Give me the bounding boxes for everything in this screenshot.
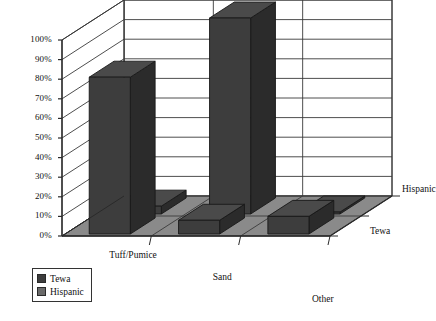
legend-item-label: Tewa	[50, 274, 70, 284]
y-axis-tick-label: 90%	[10, 54, 52, 64]
y-axis-tick-label: 30%	[10, 171, 52, 181]
y-axis-tick-label: 20%	[10, 191, 52, 201]
legend-swatch-icon	[37, 287, 46, 296]
chart-legend: Tewa Hispanic	[32, 268, 92, 302]
y-axis-tick-label: 10%	[10, 210, 52, 220]
y-axis-tick-label: 50%	[10, 132, 52, 142]
y-axis-tick-label: 40%	[10, 152, 52, 162]
legend-item[interactable]: Hispanic	[37, 285, 84, 298]
y-axis-tick-label: 60%	[10, 112, 52, 122]
x-axis-category-label: Tuff/Pumice	[109, 250, 157, 260]
legend-item[interactable]: Tewa	[37, 272, 84, 285]
x-axis-category-label: Sand	[213, 272, 232, 282]
y-axis-tick-label: 0%	[10, 230, 52, 240]
x-axis-category-label: Other	[312, 294, 334, 304]
z-axis-label: Tewa	[370, 226, 390, 236]
legend-swatch-icon	[37, 274, 46, 283]
z-axis-label: Hispanic	[402, 184, 436, 194]
y-axis-tick-label: 100%	[10, 34, 52, 44]
y-axis-tick-label: 70%	[10, 93, 52, 103]
legend-item-label: Hispanic	[50, 287, 84, 297]
y-axis-tick-label: 80%	[10, 73, 52, 83]
